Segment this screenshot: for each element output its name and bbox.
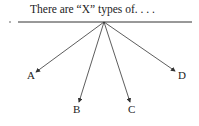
bullet-dot [9,21,11,23]
branch-diagram [0,0,199,126]
branch-label-c: C [128,103,135,115]
branch-label-b: B [73,103,80,115]
arrow-a [36,22,104,72]
arrow-d [104,22,175,71]
branch-label-a: A [27,69,35,81]
arrow-b [79,22,104,102]
branch-label-d: D [178,69,186,81]
arrow-c [104,22,130,102]
